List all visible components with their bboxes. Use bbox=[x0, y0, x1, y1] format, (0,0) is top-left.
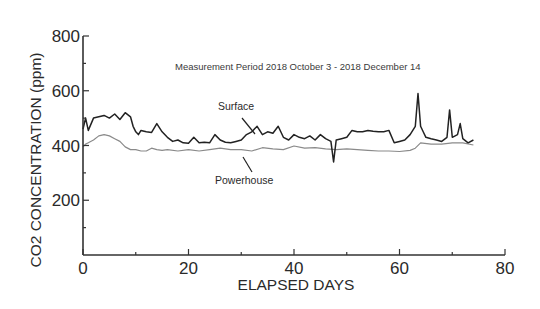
y-tick-label: 600 bbox=[52, 82, 80, 101]
x-tick-label: 80 bbox=[496, 259, 515, 278]
y-tick-label: 800 bbox=[52, 27, 80, 46]
surface-arrow bbox=[242, 118, 255, 134]
x-axis-title: ELAPSED DAYS bbox=[238, 276, 355, 293]
co2-line-chart: 020406080 200400600800 ELAPSED DAYS CO2 … bbox=[0, 0, 540, 309]
powerhouse-arrow bbox=[243, 157, 252, 172]
powerhouse-series-line bbox=[83, 135, 473, 152]
surface-series-line bbox=[83, 94, 473, 162]
x-tick-label: 20 bbox=[179, 259, 198, 278]
x-tick-label: 60 bbox=[390, 259, 409, 278]
y-tick-label: 200 bbox=[52, 191, 80, 210]
surface-series-label: Surface bbox=[218, 100, 254, 112]
x-tick-label: 0 bbox=[78, 259, 87, 278]
plot-area bbox=[83, 94, 473, 162]
y-axis-title: CO2 CONCENTRATION (ppm) bbox=[27, 52, 44, 267]
y-tick-labels: 200400600800 bbox=[52, 27, 80, 210]
y-tick-label: 400 bbox=[52, 137, 80, 156]
powerhouse-series-label: Powerhouse bbox=[215, 174, 274, 186]
measurement-period-annotation: Measurement Period 2018 October 3 - 2018… bbox=[175, 61, 421, 72]
